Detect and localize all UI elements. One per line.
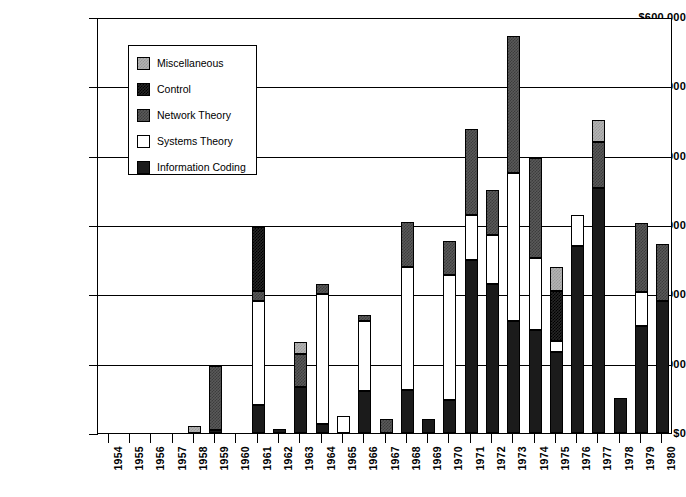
- x-axis-tick-mark: [427, 434, 428, 443]
- x-axis-tick-label-1962: 1962: [283, 446, 294, 471]
- bar-segment-systems-theory[interactable]: [635, 292, 648, 325]
- x-axis-tick-label-1973: 1973: [517, 446, 528, 471]
- bar-segment-information-coding[interactable]: [252, 405, 265, 433]
- bar-segment-information-coding[interactable]: [273, 429, 286, 433]
- x-axis-tick-label-1957: 1957: [177, 446, 188, 471]
- bar-segment-information-coding[interactable]: [422, 419, 435, 433]
- bar-segment-miscellaneous[interactable]: [294, 342, 307, 354]
- bar-segment-information-coding[interactable]: [358, 391, 371, 433]
- bar-segment-information-coding[interactable]: [294, 387, 307, 433]
- bar-segment-information-coding[interactable]: [507, 321, 520, 433]
- x-axis-tick-label-1970: 1970: [453, 446, 464, 471]
- bar-1978[interactable]: [614, 17, 627, 433]
- bar-segment-miscellaneous[interactable]: [550, 267, 563, 291]
- bar-segment-network-theory[interactable]: [443, 241, 456, 275]
- bar-segment-systems-theory[interactable]: [358, 321, 371, 392]
- bar-segment-network-theory[interactable]: [592, 142, 605, 188]
- bar-1975[interactable]: [550, 17, 563, 433]
- x-axis-tick-mark: [619, 434, 620, 443]
- bar-1969[interactable]: [422, 17, 435, 433]
- bar-segment-information-coding[interactable]: [635, 326, 648, 433]
- bar-segment-systems-theory[interactable]: [465, 215, 478, 260]
- bar-1968[interactable]: [401, 17, 414, 433]
- bar-segment-network-theory[interactable]: [401, 222, 414, 267]
- x-axis-tick-label-1958: 1958: [198, 446, 209, 471]
- bar-segment-network-theory[interactable]: [507, 36, 520, 173]
- bar-segment-systems-theory[interactable]: [571, 215, 584, 246]
- bar-segment-systems-theory[interactable]: [507, 173, 520, 321]
- bar-1971[interactable]: [465, 17, 478, 433]
- bar-segment-network-theory[interactable]: [380, 419, 393, 433]
- x-axis-tick-mark: [512, 434, 513, 443]
- bar-1980[interactable]: [656, 17, 669, 433]
- x-axis-tick-label-1967: 1967: [390, 446, 401, 471]
- bar-1973[interactable]: [507, 17, 520, 433]
- bar-1963[interactable]: [294, 17, 307, 433]
- x-axis-tick-mark: [299, 434, 300, 443]
- bar-1967[interactable]: [380, 17, 393, 433]
- bar-segment-information-coding[interactable]: [465, 260, 478, 433]
- bar-1972[interactable]: [486, 17, 499, 433]
- bar-segment-network-theory[interactable]: [486, 190, 499, 235]
- x-axis-tick-label-1961: 1961: [262, 446, 273, 471]
- bar-1977[interactable]: [592, 17, 605, 433]
- bar-segment-systems-theory[interactable]: [486, 235, 499, 284]
- bar-1979[interactable]: [635, 17, 648, 433]
- x-axis-tick-mark: [235, 434, 236, 443]
- bar-segment-systems-theory[interactable]: [443, 275, 456, 400]
- bar-1974[interactable]: [529, 17, 542, 433]
- bar-segment-systems-theory[interactable]: [550, 341, 563, 352]
- bar-1964[interactable]: [316, 17, 329, 433]
- bar-segment-information-coding[interactable]: [401, 390, 414, 433]
- bar-segment-network-theory[interactable]: [316, 284, 329, 294]
- bar-segment-control[interactable]: [252, 227, 265, 291]
- systems-theory-swatch-icon: [137, 135, 150, 148]
- information-coding-swatch-icon: [137, 161, 150, 174]
- bar-segment-information-coding[interactable]: [592, 188, 605, 433]
- bar-segment-information-coding[interactable]: [209, 430, 222, 433]
- bar-segment-network-theory[interactable]: [529, 158, 542, 258]
- x-axis-tick-mark: [576, 434, 577, 443]
- bar-1965[interactable]: [337, 17, 350, 433]
- bar-segment-information-coding[interactable]: [614, 398, 627, 433]
- bar-1966[interactable]: [358, 17, 371, 433]
- bar-segment-network-theory[interactable]: [252, 291, 265, 301]
- x-axis-tick-label-1978: 1978: [624, 446, 635, 471]
- x-axis-tick-label-1976: 1976: [581, 446, 592, 471]
- bar-segment-information-coding[interactable]: [571, 246, 584, 433]
- x-axis-tick-mark: [448, 434, 449, 443]
- bar-segment-network-theory[interactable]: [358, 315, 371, 321]
- bar-segment-information-coding[interactable]: [316, 424, 329, 433]
- bar-segment-information-coding[interactable]: [550, 352, 563, 433]
- bar-segment-network-theory[interactable]: [656, 244, 669, 302]
- x-axis-tick-mark: [129, 434, 130, 443]
- x-axis-tick-label-1960: 1960: [240, 446, 251, 471]
- x-axis-tick-label-1972: 1972: [496, 446, 507, 471]
- x-axis-tick-label-1977: 1977: [602, 446, 613, 471]
- bar-segment-systems-theory[interactable]: [337, 416, 350, 433]
- bar-segment-information-coding[interactable]: [529, 330, 542, 433]
- bar-segment-control[interactable]: [550, 291, 563, 341]
- x-axis-tick-label-1964: 1964: [326, 446, 337, 471]
- bar-segment-network-theory[interactable]: [465, 129, 478, 214]
- bar-segment-network-theory[interactable]: [209, 366, 222, 430]
- bar-1970[interactable]: [443, 17, 456, 433]
- bar-segment-information-coding[interactable]: [443, 400, 456, 433]
- bar-segment-network-theory[interactable]: [635, 223, 648, 292]
- bar-segment-systems-theory[interactable]: [252, 301, 265, 405]
- x-axis-tick-label-1966: 1966: [368, 446, 379, 471]
- bar-segment-network-theory[interactable]: [294, 354, 307, 387]
- legend-label-miscellaneous: Miscellaneous: [157, 57, 224, 70]
- bar-segment-miscellaneous[interactable]: [592, 120, 605, 142]
- x-axis-tick-mark: [363, 434, 364, 443]
- bar-segment-systems-theory[interactable]: [316, 294, 329, 424]
- bar-segment-miscellaneous[interactable]: [188, 426, 201, 433]
- bar-segment-systems-theory[interactable]: [401, 267, 414, 390]
- bar-1976[interactable]: [571, 17, 584, 433]
- y-axis-tick-mark: [89, 434, 98, 435]
- bar-segment-information-coding[interactable]: [486, 284, 499, 433]
- bar-segment-systems-theory[interactable]: [529, 258, 542, 331]
- bar-segment-information-coding[interactable]: [656, 301, 669, 433]
- bar-1962[interactable]: [273, 17, 286, 433]
- x-axis-tick-label-1974: 1974: [539, 446, 550, 471]
